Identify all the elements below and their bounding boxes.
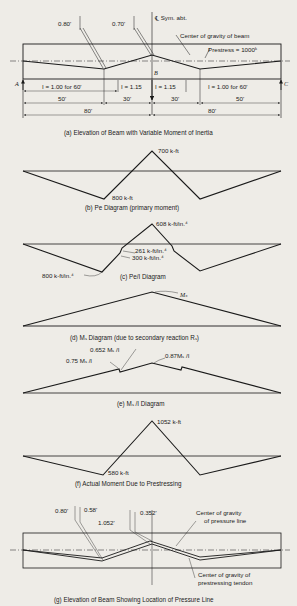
c-peak-label: 608 k-ft/in.⁴ [156, 220, 188, 227]
ecc-left-label: 0.80' [58, 20, 71, 27]
I-left-label: I = 1.00 for 60' [42, 83, 82, 90]
prestressed-beam-figure: 0.80' 0.70' ℄ Sym. abt. Center of gravit… [0, 0, 297, 606]
g-d1-label: 0.80' [55, 507, 68, 514]
c-v2-label: 300 k-ft/in.⁴ [132, 254, 164, 261]
caption-d: (d) Mₛ Diagram (due to secondary reactio… [70, 334, 199, 342]
dim-50-right: 50' [236, 95, 244, 102]
e-v2-label: 0.75 Mₛ /I [66, 357, 92, 364]
panel-d-ms-diagram [23, 291, 281, 326]
panel-b-pe-diagram [23, 151, 281, 199]
I-right-label: I = 1.00 for 60' [208, 83, 248, 90]
c-v1-label: 261 k-ft/in.⁴ [135, 247, 167, 254]
g-cg-tendon-label-2: prestressing tendon [198, 579, 253, 586]
e-v3-label: 0.87Mₛ /I [165, 352, 190, 359]
panel-a-beam-elevation [10, 12, 290, 118]
e-v1-label: 0.652 Mₛ /I [90, 346, 120, 353]
support-a-label: A [14, 80, 19, 87]
caption-e: (e) Mₛ /I Diagram [117, 400, 164, 408]
b-low-label: 800 k-ft [112, 194, 133, 201]
dim-80-right: 80' [208, 107, 216, 114]
support-b-label: B [154, 69, 158, 76]
panel-f-actual-moment [23, 421, 281, 475]
dim-30-left: 30' [123, 95, 131, 102]
I-mid-right-label: I = 1.15 [155, 83, 176, 90]
symmetry-label: ℄ Sym. abt. [154, 14, 187, 21]
caption-a: (a) Elevation of Beam with Variable Mome… [64, 129, 213, 137]
caption-b: (b) Pe Diagram (primary moment) [85, 204, 179, 212]
g-cg-tendon-label-1: Center of gravity of [198, 571, 251, 578]
c-low-label: 800 k-ft/in.⁴ [42, 272, 74, 279]
support-c-label: C [284, 80, 289, 87]
panel-a-labels: 0.80' 0.70' ℄ Sym. abt. Center of gravit… [14, 14, 289, 137]
prestress-label: Prestress = 1000ᵏ [208, 46, 258, 53]
g-cg-pressure-label-1: Center of gravity [196, 509, 242, 516]
panel-e-ms-over-i-diagram [23, 349, 281, 393]
g-d4-label: 0.352' [140, 509, 157, 516]
caption-c: (c) Pe/I Diagram [120, 273, 166, 281]
g-cg-pressure-label-2: of pressure line [204, 517, 247, 524]
I-mid-left-label: I = 1.15 [121, 83, 142, 90]
g-d3-label: 1.052' [98, 519, 115, 526]
dim-30-right: 30' [171, 95, 179, 102]
dim-50-left: 50' [58, 95, 66, 102]
d-peak-label: Mₛ [179, 291, 188, 298]
b-peak-label: 700 k-ft [158, 147, 179, 154]
cg-beam-label: Center of gravity of beam [180, 32, 249, 39]
caption-f: (f) Actual Moment Due to Prestressing [75, 480, 182, 488]
caption-g: (g) Elevation of Beam Showing Location o… [54, 596, 214, 604]
ecc-mid-label: 0.70' [112, 20, 125, 27]
g-d2-label: 0.58' [84, 506, 97, 513]
f-low-label: 580 k-ft [108, 469, 129, 476]
f-peak-label: 1052 k-ft [157, 418, 181, 425]
dim-80-left: 80' [84, 107, 92, 114]
